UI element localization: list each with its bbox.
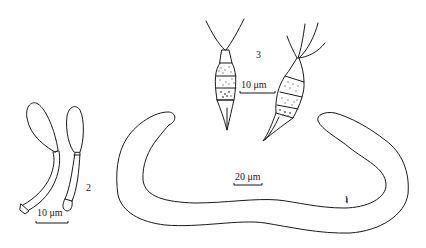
scale-bar-1-line [234,183,262,185]
organism-1-outline [117,112,409,233]
panel-label-3: 3 [256,50,261,60]
figure-illustration [0,0,426,248]
organism-2b [63,107,83,211]
scale-bar-2-label: 10 μm [37,208,63,218]
organism-2a [20,103,60,214]
figure-canvas: 2 3 1 10 μm 10 μm 20 μm [0,0,426,248]
scale-bar-2-line [36,221,68,223]
organism-3a [206,19,244,130]
panel-label-1: 1 [344,195,349,204]
scale-bar-3-label: 10 μm [241,80,267,90]
scale-bar-3-line [240,91,275,93]
scale-bar-1-label: 20 μm [235,172,261,182]
panel-label-2: 2 [86,183,91,193]
organism-3b [263,23,325,141]
